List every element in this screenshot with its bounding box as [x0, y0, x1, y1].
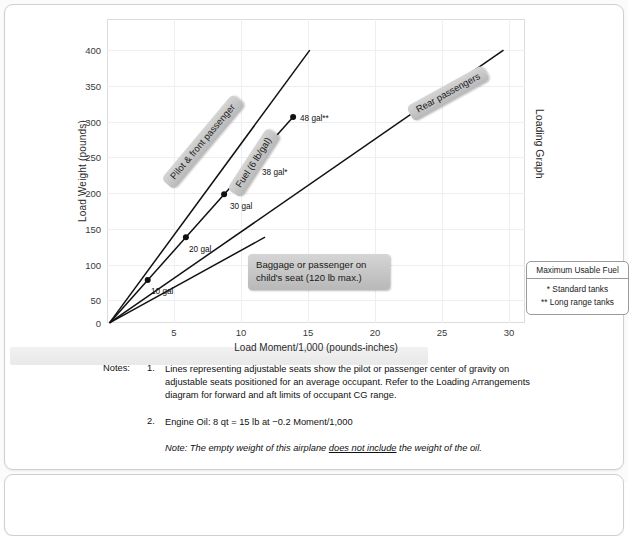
note-3-pre: Note: The empty weight of this airplane — [165, 443, 329, 453]
side-title: Loading Graph — [534, 109, 546, 178]
ytick-400: 400 — [85, 45, 101, 56]
legend-line-standard-tanks: * Standard tanks — [531, 283, 624, 296]
xtick-20: 20 — [370, 327, 381, 338]
xtick-15: 15 — [303, 327, 314, 338]
x-axis-title: Load Moment/1,000 (pounds-inches) — [107, 342, 525, 353]
marker-20-gal — [183, 234, 189, 240]
note-1-text: Lines representing adjustable seats show… — [165, 363, 533, 403]
next-page-card — [4, 474, 624, 536]
note-3-spacer — [103, 442, 147, 455]
note-2-text: Engine Oil: 8 qt = 15 lb at −0.2 Moment/… — [165, 416, 533, 429]
xtick-10: 10 — [236, 327, 247, 338]
point-label-38-gal: 38 gal* — [262, 168, 288, 177]
note-3-post: the weight of the oil. — [397, 443, 482, 453]
line-baggage — [110, 237, 266, 323]
ytick-150: 150 — [85, 223, 101, 234]
note-row-1: Notes: 1. Lines representing adjustable … — [103, 363, 533, 403]
marker-10-gal — [145, 277, 151, 283]
xtick-5: 5 — [171, 327, 176, 338]
point-label-48-gal: 48 gal** — [300, 114, 329, 123]
point-label-10-gal: 10 gal — [151, 287, 173, 296]
note-1-number: 1. — [147, 363, 165, 403]
point-label-30-gal: 30 gal — [230, 202, 252, 211]
ytick-350: 350 — [85, 80, 101, 91]
xtick-25: 25 — [437, 327, 448, 338]
legend-title: Maximum Usable Fuel — [527, 262, 628, 279]
y-axis-title: Load Weight (pounds) — [77, 120, 88, 222]
note-2-spacer — [103, 416, 147, 429]
legend-body: * Standard tanks ** Long range tanks — [527, 279, 628, 314]
note-row-3: Note: The empty weight of this airplane … — [103, 442, 533, 455]
note-3-text: Note: The empty weight of this airplane … — [165, 442, 533, 455]
ytick-50: 50 — [90, 295, 101, 306]
marker-48-gal — [290, 114, 296, 120]
note-2-number: 2. — [147, 416, 165, 429]
loading-graph-card: Loading Graph 0 50 100 150 200 — [4, 4, 624, 470]
note-3-underlined: does not include — [329, 443, 397, 453]
point-label-20-gal: 20 gal — [189, 245, 211, 254]
xtick-30: 30 — [504, 327, 515, 338]
marker-30-gal — [221, 191, 227, 197]
legend-maximum-usable-fuel: Maximum Usable Fuel * Standard tanks ** … — [526, 261, 629, 315]
callout-baggage: Baggage or passenger on child's seat (12… — [248, 254, 390, 290]
ytick-0: 0 — [96, 317, 101, 328]
note-row-2: 2. Engine Oil: 8 qt = 15 lb at −0.2 Mome… — [103, 416, 533, 429]
ytick-100: 100 — [85, 259, 101, 270]
notes-section: Notes: 1. Lines representing adjustable … — [103, 363, 533, 457]
notes-label: Notes: — [103, 363, 147, 403]
legend-line-long-range-tanks: ** Long range tanks — [531, 296, 624, 309]
note-3-spacer2 — [147, 442, 165, 455]
